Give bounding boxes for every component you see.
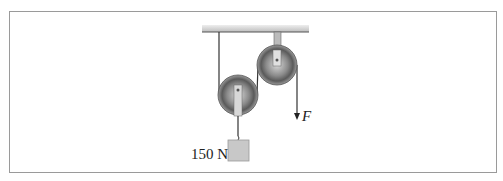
weight-block xyxy=(228,140,249,161)
pulley-diagram xyxy=(0,0,503,181)
ceiling xyxy=(202,25,309,32)
weight-label: 150 N xyxy=(191,146,228,163)
force-label: F xyxy=(302,108,311,125)
force-arrow-icon xyxy=(294,113,300,120)
